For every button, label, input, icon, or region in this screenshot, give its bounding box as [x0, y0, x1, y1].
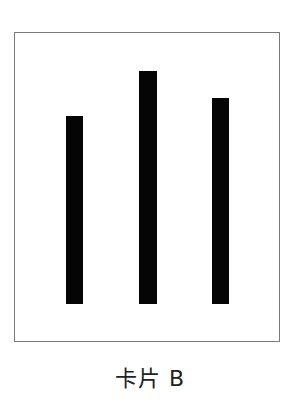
bar-1 — [66, 116, 83, 304]
bar-3 — [212, 98, 229, 304]
bar-2 — [139, 71, 157, 304]
card-label: 卡片 B — [0, 360, 300, 392]
